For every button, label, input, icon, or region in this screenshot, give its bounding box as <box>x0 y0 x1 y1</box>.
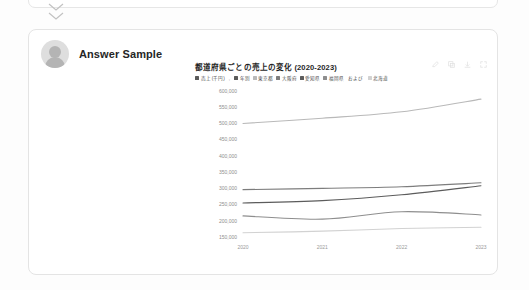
legend-swatch-icon <box>323 76 327 80</box>
legend-item-北海道[interactable]: 北海道 <box>368 75 389 81</box>
collapse-chevrons[interactable] <box>48 3 70 27</box>
y-axis-tick-label: 150,000 <box>219 234 237 240</box>
chart-plot-area: 150,000200,000250,000300,000350,000400,0… <box>195 87 487 259</box>
y-axis-tick-label: 450,000 <box>219 136 237 142</box>
legend-item-福岡県[interactable]: 福岡県 <box>323 75 344 81</box>
answer-header: Answer Sample <box>41 40 162 68</box>
chart-title: 都道府県ごとの売上の変化 (2020-2023) <box>195 61 337 72</box>
legend-swatch-icon <box>368 76 372 80</box>
chart-legend: 売上 (千円),年別東京都大阪府愛知県福岡県および北海道 <box>195 75 388 81</box>
y-axis-tick-label: 350,000 <box>219 169 237 175</box>
y-axis-tick-label: 400,000 <box>219 153 237 159</box>
y-axis-tick-label: 250,000 <box>219 201 237 207</box>
legend-swatch-icon <box>253 76 257 80</box>
legend-label: 東京都 <box>258 75 273 81</box>
previous-message-card <box>28 0 498 8</box>
avatar-body <box>45 57 65 68</box>
legend-swatch-icon <box>234 76 238 80</box>
y-axis-tick-label: 300,000 <box>219 185 237 191</box>
chart-line-東京都 <box>243 99 481 123</box>
y-axis-tick-label: 200,000 <box>219 218 237 224</box>
legend-label: 年別 <box>240 75 250 81</box>
x-axis-tick-label: 2021 <box>317 244 328 250</box>
legend-swatch-icon <box>276 76 280 80</box>
y-axis-tick-label: 500,000 <box>219 120 237 126</box>
answer-author-name: Answer Sample <box>79 48 162 60</box>
chart-container: 都道府県ごとの売上の変化 (2020-2023) <box>195 61 487 259</box>
chevron-double-down-icon[interactable] <box>48 3 64 12</box>
copy-icon[interactable] <box>448 61 455 68</box>
legend-label: 売上 (千円) <box>201 75 225 81</box>
page-background: Answer Sample 都道府県ごとの売上の変化 (2020-2023) <box>0 0 529 290</box>
chart-line-大阪府 <box>243 183 481 190</box>
chart-line-北海道 <box>243 227 481 233</box>
legend-separator: , <box>228 76 231 81</box>
legend-label: 愛知県 <box>305 75 320 81</box>
y-axis-tick-label: 550,000 <box>219 104 237 110</box>
download-icon[interactable] <box>464 61 471 68</box>
chart-line-福岡県 <box>243 212 481 220</box>
y-axis-tick-label: 600,000 <box>219 88 237 94</box>
chart-svg: 150,000200,000250,000300,000350,000400,0… <box>195 87 487 259</box>
legend-item-axis-1[interactable]: 年別 <box>234 75 250 81</box>
edit-icon[interactable] <box>432 61 439 68</box>
legend-label: 大阪府 <box>282 75 297 81</box>
legend-item-東京都[interactable]: 東京都 <box>253 75 274 81</box>
answer-card: Answer Sample 都道府県ごとの売上の変化 (2020-2023) <box>28 29 498 275</box>
legend-swatch-icon <box>195 76 199 80</box>
legend-item-axis-0[interactable]: 売上 (千円) <box>195 75 225 81</box>
x-axis-tick-label: 2023 <box>475 244 486 250</box>
chart-line-愛知県 <box>243 186 481 203</box>
legend-label: 北海道 <box>373 75 388 81</box>
legend-swatch-icon <box>300 76 304 80</box>
expand-icon[interactable] <box>480 61 487 68</box>
legend-item-愛知県[interactable]: 愛知県 <box>300 75 321 81</box>
legend-item-大阪府[interactable]: 大阪府 <box>276 75 297 81</box>
user-avatar-icon <box>41 40 69 68</box>
legend-label: 福岡県 <box>329 75 344 81</box>
chart-toolbar[interactable] <box>432 61 487 68</box>
x-axis-tick-label: 2020 <box>237 244 248 250</box>
legend-conjunction: および <box>347 75 365 81</box>
chevron-double-down-icon-secondary[interactable] <box>48 12 64 21</box>
x-axis-tick-label: 2022 <box>396 244 407 250</box>
